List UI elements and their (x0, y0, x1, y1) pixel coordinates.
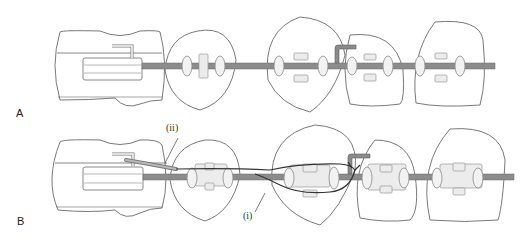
panel-b-label: B (17, 215, 24, 227)
orthodontic-diagram: A (0, 0, 528, 242)
leader-i (255, 193, 265, 212)
panel-a: A (16, 17, 495, 119)
annotation-i: (i) (243, 210, 252, 222)
panel-a-label: A (16, 107, 24, 119)
panel-b: (ii) (i) B (17, 122, 514, 227)
annotation-ii: (ii) (166, 122, 178, 134)
molar-tube-a (83, 58, 142, 80)
molar-tube-b (83, 167, 143, 190)
